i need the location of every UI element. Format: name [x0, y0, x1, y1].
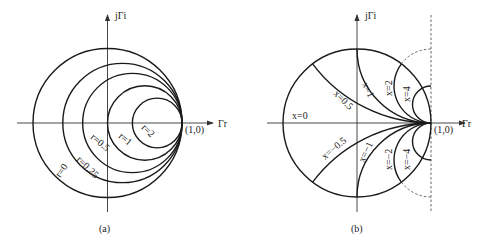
label-r-1: r=1 — [117, 130, 135, 147]
label-x-minus-2: x=−2 — [383, 149, 394, 170]
label-x-2: x=2 — [383, 80, 394, 96]
label-x-0.5: x=0.5 — [332, 88, 356, 112]
panel-a-resistance-circles: jΓi Γr (1,0) r=0 r=0.25 r=0.5 r=1 r=2 (a… — [17, 10, 228, 235]
label-r-2: r=2 — [140, 122, 158, 140]
figure-canvas: jΓi Γr (1,0) r=0 r=0.25 r=0.5 r=1 r=2 (a… — [0, 0, 488, 244]
point-label-b: (1,0) — [434, 124, 453, 136]
label-x-0: x=0 — [292, 110, 308, 121]
arc-x-2-outside-dashed — [401, 49, 431, 64]
x-axis-label-b: Γr — [462, 118, 472, 129]
caption-b: (b) — [351, 223, 363, 235]
label-x-minus-0.5: x=−0.5 — [319, 135, 348, 162]
panel-b-reactance-arcs: jΓi Γr (1,0) x=0 x=0.5 x=1 x=2 x=4 x=−0.… — [267, 10, 472, 235]
smith-chart-figure: jΓi Γr (1,0) r=0 r=0.25 r=0.5 r=1 r=2 (a… — [0, 0, 488, 244]
x-axis-label-a: Γr — [218, 118, 228, 129]
caption-a: (a) — [99, 223, 110, 235]
label-x-minus-4: x=−4 — [401, 149, 412, 170]
y-axis-label-a: jΓi — [114, 10, 127, 21]
label-x-4: x=4 — [401, 86, 412, 102]
point-label-a: (1,0) — [185, 124, 204, 136]
y-axis-label-b: jΓi — [364, 10, 377, 21]
arc-x-minus-2-outside-dashed — [401, 182, 431, 197]
